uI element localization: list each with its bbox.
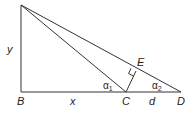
label-b: B xyxy=(17,95,24,107)
label-d-length: d xyxy=(149,95,156,107)
label-e: E xyxy=(137,56,145,68)
label-d: D xyxy=(177,95,185,107)
alpha1-subscript: 1 xyxy=(109,85,113,92)
label-alpha2: α2 xyxy=(152,80,162,92)
segment-ac xyxy=(21,5,126,92)
segment-ad xyxy=(21,5,181,92)
geometry-diagram: y B x C d D E α1 α2 xyxy=(0,0,195,122)
label-x: x xyxy=(69,95,76,107)
segment-ce xyxy=(126,71,136,92)
alpha2-subscript: 2 xyxy=(158,85,162,92)
label-y: y xyxy=(6,43,14,55)
right-angle-marker xyxy=(129,68,134,76)
label-alpha1: α1 xyxy=(103,80,113,92)
label-c: C xyxy=(122,95,130,107)
